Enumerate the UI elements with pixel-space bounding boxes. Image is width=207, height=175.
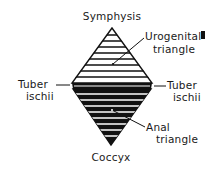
label-urogenital-line1: Urogenital xyxy=(145,31,201,42)
label-tuber-left-line1: Tuber xyxy=(18,79,48,90)
label-coccyx: Coccyx xyxy=(80,152,142,163)
perineum-diagram: Symphysis Urogenital triangle Tuber isch… xyxy=(0,0,207,175)
label-anal-line1: Anal xyxy=(146,122,170,133)
label-symphysis: Symphysis xyxy=(79,11,145,22)
label-mark xyxy=(201,31,205,39)
label-urogenital-line2: triangle xyxy=(153,44,195,55)
label-tuber-left-line2: ischii xyxy=(26,91,54,102)
label-anal-line2: triangle xyxy=(156,134,198,145)
label-tuber-right-line1: Tuber xyxy=(167,80,197,91)
anal-triangle xyxy=(60,89,165,145)
label-tuber-right-line2: ischii xyxy=(173,92,201,103)
